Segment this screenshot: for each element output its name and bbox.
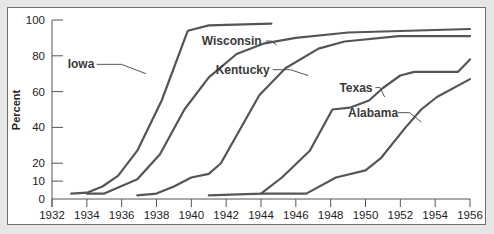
x-tick-label: 1950 [353,209,379,221]
x-tick-label: 1940 [179,209,205,221]
series-label-wisconsin: Wisconsin [202,34,262,48]
x-tick-label: 1954 [422,209,448,221]
y-tick-label: 0 [39,193,45,205]
x-tick-label: 1942 [213,209,239,221]
series-line-kentucky [137,36,470,195]
x-tick-label: 1938 [144,209,170,221]
chart-series: IowaWisconsinKentuckyTexasAlabama [68,24,470,196]
series-label-texas: Texas [339,81,372,95]
x-tick-label: 1934 [74,209,100,221]
series-line-wisconsin [87,29,470,194]
y-tick-label: 100 [26,14,45,26]
x-tick-label: 1948 [318,209,344,221]
x-tick-label: 1952 [388,209,414,221]
y-tick-label: 10 [32,175,45,187]
series-label-iowa: Iowa [68,57,95,71]
y-tick-label: 20 [32,157,45,169]
x-tick-label: 1946 [283,209,309,221]
x-tick-label: 1956 [457,209,483,221]
series-line-iowa [71,24,271,194]
line-chart: 0102040608010019321934193619381940194219… [0,0,494,234]
y-axis-label: Percent [10,89,22,130]
x-tick-label: 1932 [39,209,65,221]
y-tick-label: 80 [32,50,45,62]
series-label-alabama: Alabama [348,106,398,120]
y-tick-label: 40 [32,121,45,133]
series-line-alabama [261,79,470,194]
x-tick-label: 1944 [248,209,274,221]
series-label-kentucky: Kentucky [216,63,270,77]
x-tick-label: 1936 [109,209,135,221]
y-tick-label: 60 [32,86,45,98]
series-leader-iowa [97,64,146,73]
